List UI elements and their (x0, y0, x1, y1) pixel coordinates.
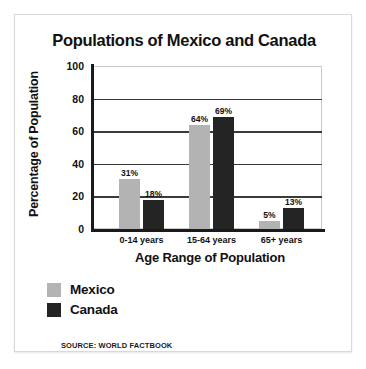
y-axis-title: Percentage of Population (27, 59, 41, 229)
bar-value-label: 64% (191, 114, 208, 124)
y-tick-20: 20 (72, 190, 84, 202)
plot-region: 100 80 60 40 20 0 31% 18% 0-14 years 6 (91, 66, 322, 229)
bar-canada[interactable]: 13% (283, 208, 304, 229)
bar-mexico[interactable]: 5% (259, 221, 280, 229)
x-tick-label: 15-64 years (187, 235, 236, 245)
bar-canada[interactable]: 69% (213, 117, 234, 230)
y-tick-40: 40 (72, 158, 84, 170)
bar-value-label: 13% (285, 197, 302, 207)
legend-label: Canada (70, 302, 118, 317)
bar-value-label: 69% (215, 106, 232, 116)
bar-group-inner: 64% 69% 15-64 years (189, 66, 234, 229)
bar-group-inner: 5% 13% 65+ years (259, 66, 304, 229)
x-axis-title: Age Range of Population (75, 250, 345, 265)
chart-card: Populations of Mexico and Canada Percent… (14, 14, 352, 352)
x-tick-label: 0-14 years (119, 235, 163, 245)
legend-item-mexico[interactable]: Mexico (47, 282, 118, 297)
bar-value-label: 31% (121, 168, 138, 178)
bar-mexico[interactable]: 31% (119, 179, 140, 230)
y-tick-60: 60 (72, 125, 84, 137)
y-tick-100: 100 (66, 60, 84, 72)
legend-swatch-icon (47, 283, 61, 297)
bar-group-inner: 31% 18% 0-14 years (119, 66, 164, 229)
y-axis-line (91, 64, 94, 231)
bar-value-label: 5% (263, 210, 275, 220)
y-tick-80: 80 (72, 93, 84, 105)
y-tick-0: 0 (78, 223, 84, 235)
source-note: SOURCE: WORLD FACTBOOK (61, 341, 172, 350)
x-tick-label: 65+ years (261, 235, 302, 245)
chart-title: Populations of Mexico and Canada (15, 31, 353, 50)
bar-mexico[interactable]: 64% (189, 125, 210, 229)
bar-canada[interactable]: 18% (143, 200, 164, 229)
legend-item-canada[interactable]: Canada (47, 302, 118, 317)
chart-legend: Mexico Canada (47, 282, 118, 322)
legend-label: Mexico (70, 282, 115, 297)
x-axis-line (91, 229, 325, 232)
legend-swatch-icon (47, 303, 61, 317)
bar-value-label: 18% (145, 189, 162, 199)
